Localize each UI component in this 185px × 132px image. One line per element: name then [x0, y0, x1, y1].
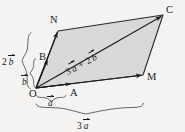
vector-label-two-b: 2b: [2, 52, 14, 68]
point-label-a: A: [70, 88, 78, 99]
point-label-m: M: [147, 72, 156, 83]
parallelogram-svg: [0, 0, 185, 132]
vector-label-b: b: [22, 72, 27, 88]
point-label-c: C: [166, 5, 173, 16]
a-symbol: a: [48, 99, 53, 109]
b-symbol: b: [22, 78, 27, 88]
point-label-o: O: [29, 89, 37, 100]
vector-label-three-a: 3a: [77, 116, 89, 132]
point-label-n: N: [50, 15, 58, 26]
vector-label-a: a: [48, 93, 53, 109]
vector-diagram-figure: O A B N M C 2b b a 3a 3a+2b: [0, 0, 185, 132]
two-b-symbol: b: [9, 58, 14, 68]
three-a-coefficient: 3: [77, 121, 82, 131]
two-b-coefficient: 2: [2, 57, 7, 67]
three-a-symbol: a: [84, 122, 89, 132]
point-label-b: B: [39, 52, 46, 63]
brace-b: [30, 59, 36, 88]
